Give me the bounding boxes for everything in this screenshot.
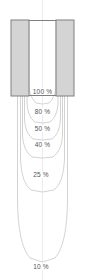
isodose-label-80: 80 % [34,108,52,115]
collimator-jaw-right [56,20,74,96]
isodose-figure: 100 % 80 % 50 % 40 % 25 % 10 % [0,0,85,280]
isodose-label-25: 25 % [32,171,50,178]
isodose-label-50: 50 % [34,125,52,132]
isodose-label-100: 100 % [32,88,53,95]
collimator-jaw-left [11,20,29,96]
isodose-label-10: 10 % [32,263,50,270]
isodose-label-40: 40 % [34,141,52,148]
isodose-plot-canvas [0,0,85,280]
